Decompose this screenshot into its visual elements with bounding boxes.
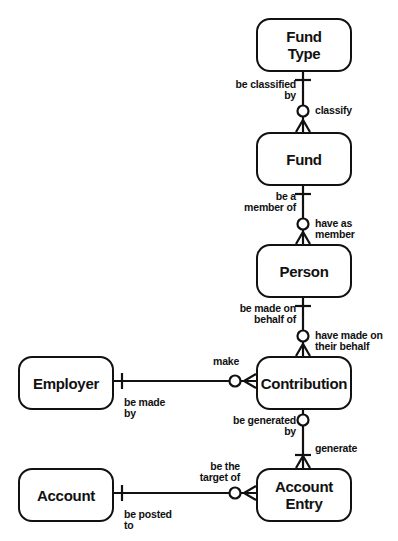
entity-fund-type[interactable]: Fund Type bbox=[256, 18, 352, 72]
label-be-made-on-behalf-of: be made on behalf of bbox=[226, 303, 296, 325]
zero-circle-icon bbox=[230, 488, 241, 499]
label-have-made-on-their-behalf: have made on their behalf bbox=[315, 330, 383, 352]
entity-account-entry[interactable]: Account Entry bbox=[256, 468, 352, 522]
zero-circle-icon bbox=[298, 219, 309, 230]
label-make: make bbox=[213, 356, 239, 367]
label-have-as-member: have as member bbox=[315, 218, 355, 240]
entity-account[interactable]: Account bbox=[18, 468, 114, 522]
zero-circle-icon bbox=[230, 376, 241, 387]
entity-contribution[interactable]: Contribution bbox=[256, 356, 352, 410]
label-generate: generate bbox=[315, 443, 357, 454]
label-be-made-by: be made by bbox=[124, 397, 165, 419]
label-be-posted-to: be posted to bbox=[124, 509, 172, 531]
label-be-generated-by: be generated by bbox=[222, 415, 296, 437]
zero-circle-icon bbox=[298, 106, 309, 117]
entity-employer[interactable]: Employer bbox=[18, 356, 114, 410]
label-classify: classify bbox=[315, 105, 352, 116]
entity-fund[interactable]: Fund bbox=[256, 132, 352, 186]
entity-person[interactable]: Person bbox=[256, 244, 352, 298]
zero-circle-icon bbox=[298, 331, 309, 342]
label-be-a-member-of: be a member of bbox=[228, 191, 296, 213]
label-be-the-target-of: be the target of bbox=[186, 461, 240, 483]
label-be-classified-by: be classified by bbox=[228, 79, 296, 101]
zero-circle-icon bbox=[298, 415, 309, 426]
